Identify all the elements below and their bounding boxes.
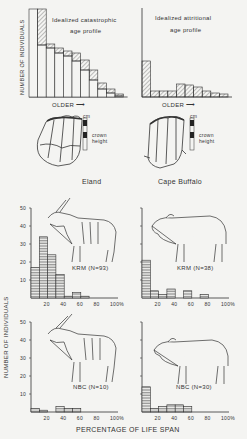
nbc-buffalo-title: NBC (N=30) xyxy=(176,384,212,390)
x-tick-label: 60 xyxy=(77,415,83,421)
x-tick-label: 80 xyxy=(204,415,210,421)
y-tick-label: 30 xyxy=(20,241,26,247)
y-tick-label: 10 xyxy=(20,391,26,397)
x-tick-label: 60 xyxy=(188,415,194,421)
x-tick-label: 100% xyxy=(110,301,124,307)
x-tick-label: 20 xyxy=(155,301,161,307)
x-tick-label: 20 xyxy=(44,415,50,421)
catastrophic-title-line2: age profile xyxy=(70,28,101,34)
eland-scale-unit: cm xyxy=(83,113,90,119)
x-tick-label: 100% xyxy=(110,415,124,421)
y-tick-label: 30 xyxy=(20,355,26,361)
x-tick-label: 80 xyxy=(204,301,210,307)
y-tick-label: 20 xyxy=(20,373,26,379)
x-tick-label: 60 xyxy=(188,301,194,307)
y-tick-label: 20 xyxy=(20,259,26,265)
eland-tooth-drawing xyxy=(37,116,82,166)
x-tick-label: 80 xyxy=(93,415,99,421)
nbc-eland-title: NBC (N=10) xyxy=(73,384,109,390)
x-tick-label: 20 xyxy=(155,415,161,421)
y-axis-label-idealized: NUMBER OF INDIVIDUALS xyxy=(19,20,25,95)
x-tick-label: 40 xyxy=(171,415,177,421)
y-tick-label: 40 xyxy=(20,337,26,343)
eland-crown-height-scale xyxy=(83,118,87,150)
attritional-title-line1: Idealized attritional xyxy=(155,15,211,21)
cape-buffalo-label: Cape Buffalo xyxy=(158,178,202,185)
arrow-right-icon: ⟶ xyxy=(76,102,85,108)
x-tick-label: 20 xyxy=(44,301,50,307)
x-tick-label: 100% xyxy=(221,301,235,307)
buffalo-scale-unit: cm xyxy=(190,113,197,119)
y-tick-label: 10 xyxy=(20,277,26,283)
nbc-buffalo-histogram xyxy=(140,322,229,412)
y-tick-label: 50 xyxy=(20,205,26,211)
y-tick-label: 40 xyxy=(20,223,26,229)
older-label-right: OLDER ⟶ xyxy=(162,101,195,108)
eland-label: Eland xyxy=(82,178,101,185)
x-tick-label: 40 xyxy=(60,415,66,421)
older-text: OLDER xyxy=(52,102,74,108)
y-tick-label: 50 xyxy=(20,319,26,325)
figure-canvas xyxy=(0,0,247,439)
eland-illustration-krm xyxy=(48,198,116,262)
x-tick-label: 80 xyxy=(93,301,99,307)
x-tick-label: 40 xyxy=(171,301,177,307)
older-label-left: OLDER ⟶ xyxy=(52,101,85,108)
attritional-histogram xyxy=(142,8,232,97)
x-tick-label: 100% xyxy=(221,415,235,421)
y-axis-label-data: NUMBER OF INDIVIDUALS xyxy=(3,296,9,378)
x-tick-label: 40 xyxy=(60,301,66,307)
buffalo-illustration-nbc xyxy=(154,338,228,384)
older-text: OLDER xyxy=(162,102,184,108)
x-tick-label: 60 xyxy=(77,301,83,307)
eland-crown-label-2: height xyxy=(92,138,107,144)
x-axis-label: PERCENTAGE OF LIFE SPAN xyxy=(76,426,180,433)
attritional-title-line2: age profile xyxy=(170,27,201,33)
eland-illustration-nbc xyxy=(48,314,116,382)
krm-buffalo-title: KRM (N=38) xyxy=(177,265,214,271)
buffalo-crown-height-scale xyxy=(190,118,194,150)
buffalo-tooth-drawing xyxy=(144,116,186,168)
arrow-right-icon: ⟶ xyxy=(186,102,195,108)
buffalo-illustration-krm xyxy=(152,214,226,262)
catastrophic-title-line1: Idealized catastrophic xyxy=(52,17,117,23)
krm-eland-title: KRM (N=93) xyxy=(72,265,109,271)
buffalo-crown-label-2: height xyxy=(199,138,214,144)
